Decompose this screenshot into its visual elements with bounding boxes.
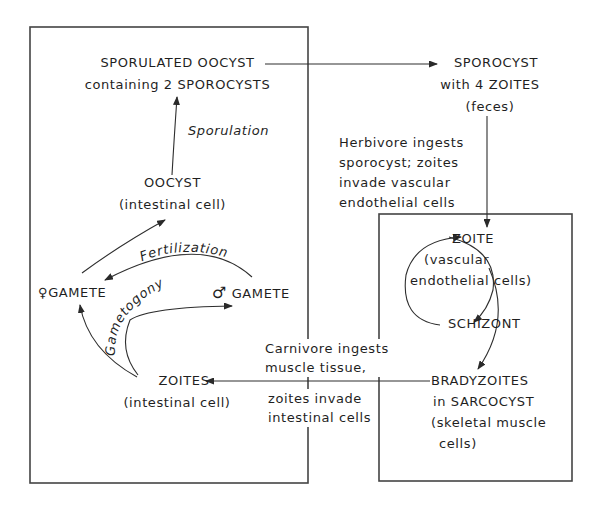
- carnivore-line-2: muscle tissue,: [265, 358, 389, 377]
- bradyzoites-title: BRADYZOITES: [431, 370, 546, 391]
- male-gamete-label: GAMETE: [232, 286, 290, 301]
- carnivore-line-4: intestinal cells: [268, 408, 371, 427]
- label-sporulation: Sporulation: [188, 120, 269, 142]
- sporocyst-title: SPOROCYST: [437, 52, 555, 74]
- arrow-sporulation: [172, 97, 177, 175]
- label-carnivore-top: Carnivore ingests muscle tissue,: [265, 339, 389, 377]
- label-carnivore-bottom: zoites invade intestinal cells: [268, 389, 371, 427]
- bradyzoites-location-1: (skeletal muscle: [431, 412, 546, 433]
- zoite-location-2: endothelial cells): [410, 270, 530, 291]
- male-symbol-icon: ♂: [212, 283, 227, 302]
- node-male-gamete: ♂ GAMETE: [212, 282, 290, 305]
- arrow-zoites-to-female: [80, 305, 137, 377]
- zoites-title: ZOITES: [112, 370, 242, 392]
- carnivore-line-1: Carnivore ingests: [265, 339, 389, 358]
- node-oocyst: OOCYST (intestinal cell): [105, 172, 240, 216]
- female-symbol-icon: ♀: [38, 285, 48, 300]
- node-zoite-vascular: ZOITE (vascular endothelial cells): [410, 228, 530, 291]
- oocyst-location: (intestinal cell): [105, 194, 240, 216]
- zoite-location-1: (vascular: [410, 249, 530, 270]
- sporulated-oocyst-title: SPORULATED OOCYST: [60, 52, 295, 74]
- sporulated-oocyst-subtitle: containing 2 SPOROCYSTS: [60, 74, 295, 96]
- node-sporulated-oocyst: SPORULATED OOCYST containing 2 SPOROCYST…: [60, 52, 295, 96]
- female-gamete-label: GAMETE: [48, 285, 106, 300]
- node-schizont: SCHIZONT: [448, 313, 521, 335]
- node-zoites-intestinal: ZOITES (intestinal cell): [112, 370, 242, 414]
- herbivore-line-4: endothelial cells: [339, 193, 464, 213]
- zoite-title: ZOITE: [410, 228, 530, 249]
- oocyst-title: OOCYST: [105, 172, 240, 194]
- bradyzoites-subtitle: in SARCOCYST: [431, 391, 546, 412]
- sporocyst-location: (feces): [425, 96, 555, 118]
- bradyzoites-location-2: cells): [431, 433, 546, 454]
- label-herbivore: Herbivore ingests sporocyst; zoites inva…: [339, 133, 464, 213]
- zoites-location: (intestinal cell): [112, 392, 242, 414]
- herbivore-line-2: sporocyst; zoites: [339, 153, 464, 173]
- carnivore-line-3: zoites invade: [268, 389, 371, 408]
- sporocyst-subtitle: with 4 ZOITES: [425, 74, 555, 96]
- arrow-zoites-to-male: [126, 306, 233, 375]
- arrow-gamete-to-oocyst: [82, 220, 165, 273]
- node-sporocyst: SPOROCYST with 4 ZOITES (feces): [425, 52, 555, 118]
- herbivore-line-3: invade vascular: [339, 173, 464, 193]
- node-bradyzoites: BRADYZOITES in SARCOCYST (skeletal muscl…: [431, 370, 546, 454]
- arrow-fertilization: [105, 254, 252, 280]
- node-female-gamete: ♀GAMETE: [38, 282, 106, 304]
- herbivore-line-1: Herbivore ingests: [339, 133, 464, 153]
